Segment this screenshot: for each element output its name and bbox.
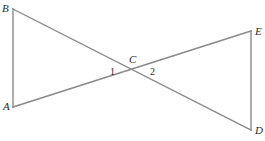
vertex-label-b: B (2, 3, 9, 14)
angle-label-1: 1 (110, 67, 115, 77)
figure-canvas (0, 0, 265, 141)
vertex-label-e: E (255, 26, 262, 37)
vertex-label-d: D (255, 125, 263, 136)
angle-label-2: 2 (150, 67, 155, 77)
vertex-label-c: C (129, 54, 136, 65)
vertex-label-a: A (3, 101, 10, 112)
geometry-figure: B A E D C 1 2 (0, 0, 265, 141)
segment-ae (13, 31, 251, 107)
